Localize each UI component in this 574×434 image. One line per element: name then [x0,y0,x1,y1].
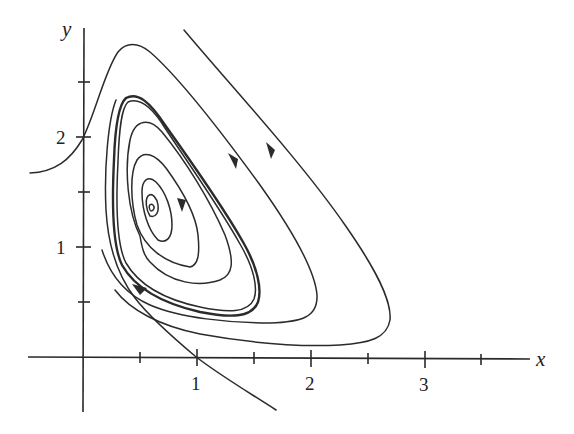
y-axis-label: y [60,17,72,41]
y-tick-label-1: 1 [56,237,66,258]
x-axis-label: x [535,347,546,371]
x-tick-label-2: 2 [305,373,315,394]
y-tick-label-2: 2 [56,127,66,148]
phase-portrait-figure: 1 2 3 1 2 x y [0,0,574,434]
x-tick-label-1: 1 [191,373,201,394]
trajectory-outer-left [30,45,317,324]
arrow-outer-right [266,142,275,159]
phase-portrait-svg: 1 2 3 1 2 x y [0,0,574,434]
x-axis [28,357,530,359]
limit-cycle-inner-trace [117,101,256,311]
spiral-core [146,195,158,217]
y-axis [83,28,84,412]
arrow-inner-spiral [177,198,186,212]
arrow-outer-left [228,153,238,169]
spiral-ring-2 [132,154,199,267]
trajectory-outer-right [115,30,390,346]
x-tick-label-3: 3 [419,374,429,395]
